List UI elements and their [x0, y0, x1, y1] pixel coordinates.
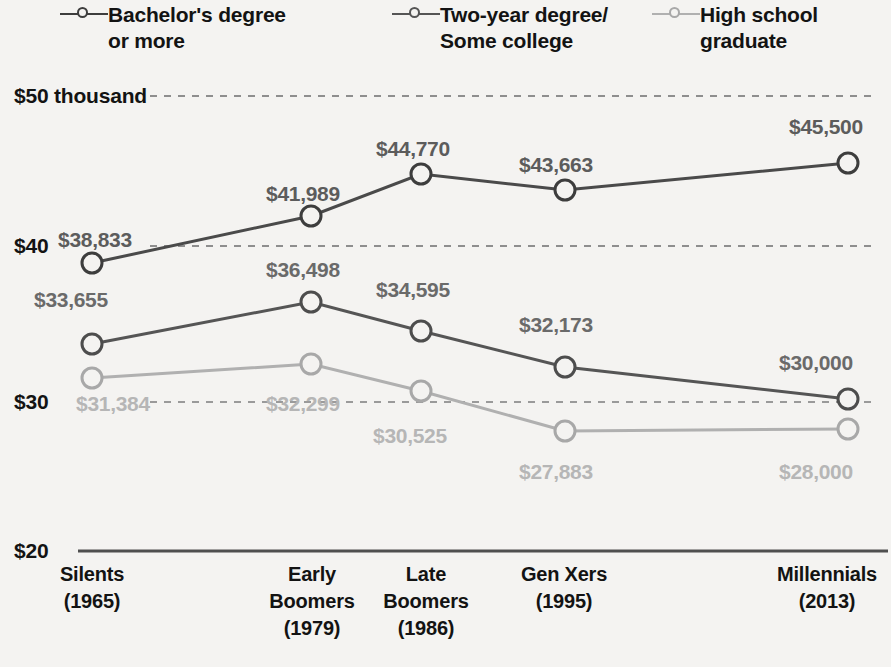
- data-label-high-school-early-boomers: $32,299: [266, 392, 340, 416]
- y-axis-label-30k: $30: [14, 390, 48, 414]
- series-line-bachelors: [92, 163, 848, 263]
- data-label-two-year-silents: $33,655: [34, 288, 108, 312]
- data-point-bachelors-silents: [82, 253, 102, 273]
- data-point-bachelors-gen-xers: [555, 180, 575, 200]
- data-label-bachelors-silents: $38,833: [58, 228, 132, 252]
- data-point-bachelors-late-boomers: [411, 164, 431, 184]
- y-axis-label-50k: $50 thousand: [14, 84, 147, 108]
- data-point-bachelors-millennials: [838, 153, 858, 173]
- plot-area: $50 thousand $40 $30 $20 Silents (1965) …: [0, 0, 891, 667]
- data-point-high-school-millennials: [838, 419, 858, 439]
- data-label-bachelors-early-boomers: $41,989: [266, 182, 340, 206]
- data-point-two-year-gen-xers: [555, 357, 575, 377]
- data-label-two-year-millennials: $30,000: [779, 351, 853, 375]
- data-point-two-year-early-boomers: [301, 292, 321, 312]
- series-high-school-graduate: [82, 354, 858, 441]
- data-label-two-year-early-boomers: $36,498: [266, 258, 340, 282]
- x-axis-label-early-boomers: Early Boomers (1979): [246, 561, 378, 642]
- data-point-high-school-late-boomers: [411, 381, 431, 401]
- data-point-high-school-gen-xers: [555, 421, 575, 441]
- data-label-high-school-late-boomers: $30,525: [373, 424, 447, 448]
- x-axis-label-silents: Silents (1965): [22, 561, 162, 615]
- data-point-high-school-silents: [82, 368, 102, 388]
- series-line-two-year: [92, 302, 848, 399]
- chart-container: Bachelor's degree or more Two-year degre…: [0, 0, 891, 667]
- series-bachelors-degree: [82, 153, 858, 273]
- y-axis-label-40k: $40: [14, 234, 48, 258]
- data-label-high-school-millennials: $28,000: [779, 460, 853, 484]
- data-label-two-year-late-boomers: $34,595: [376, 278, 450, 302]
- data-label-bachelors-late-boomers: $44,770: [376, 137, 450, 161]
- data-point-two-year-silents: [82, 334, 102, 354]
- gridlines: [150, 96, 875, 402]
- data-label-bachelors-gen-xers: $43,663: [519, 153, 593, 177]
- data-label-high-school-silents: $31,384: [76, 392, 150, 416]
- series-line-high-school: [92, 364, 848, 431]
- x-axis-label-late-boomers: Late Boomers (1986): [368, 561, 484, 642]
- data-point-two-year-millennials: [838, 389, 858, 409]
- data-label-bachelors-millennials: $45,500: [789, 115, 863, 139]
- x-axis-label-gen-xers: Gen Xers (1995): [494, 561, 634, 615]
- data-label-high-school-gen-xers: $27,883: [519, 460, 593, 484]
- data-label-two-year-gen-xers: $32,173: [519, 313, 593, 337]
- y-axis-label-20k: $20: [14, 539, 48, 563]
- series-two-year-degree: [82, 292, 858, 409]
- x-axis-label-millennials: Millennials (2013): [762, 561, 891, 615]
- data-point-two-year-late-boomers: [411, 321, 431, 341]
- data-point-bachelors-early-boomers: [301, 206, 321, 226]
- data-point-high-school-early-boomers: [301, 354, 321, 374]
